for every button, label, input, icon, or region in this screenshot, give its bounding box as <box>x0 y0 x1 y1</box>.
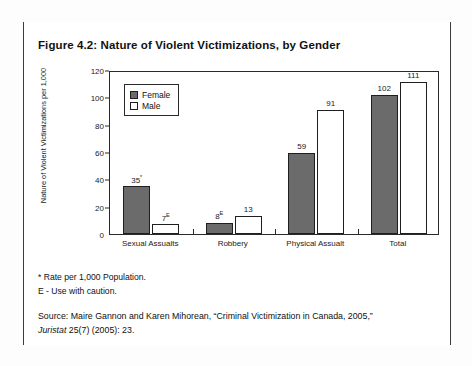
bar-value-label: 102 <box>378 84 391 93</box>
bar-value-label: 91 <box>326 99 335 108</box>
legend-swatch-male <box>130 102 138 110</box>
note-caution: E - Use with caution. <box>38 285 146 299</box>
x-category-label: Physical Assualt <box>286 239 344 248</box>
bar-male-3 <box>400 82 427 234</box>
bar-value-label: 111 <box>407 71 419 80</box>
bar-male-0 <box>152 224 179 234</box>
bar-value-label: 35* <box>131 174 142 185</box>
source-journal: Juristat <box>38 325 66 335</box>
bar-value-label: 7E <box>162 212 170 223</box>
plot-frame: 35*7E8E135991102111 Female Male <box>109 71 439 235</box>
bar-female-1 <box>206 223 233 234</box>
figure-notes: * Rate per 1,000 Population. E - Use wit… <box>38 271 146 298</box>
figure-page: Figure 4.2: Nature of Violent Victimizat… <box>0 0 472 366</box>
y-tick-label: 80 <box>95 121 104 130</box>
bar-value-label: 8E <box>215 210 223 221</box>
y-tick-label: 60 <box>95 149 104 158</box>
legend-item-female: Female <box>130 89 170 100</box>
x-axis-labels: Sexual AssualtsRobberyPhysical AssualtTo… <box>109 237 439 253</box>
bar-value-label: 13 <box>244 205 253 214</box>
legend: Female Male <box>124 84 179 116</box>
bar-male-2 <box>317 110 344 234</box>
note-rate: * Rate per 1,000 Population. <box>38 271 146 285</box>
bar-female-0 <box>123 186 150 234</box>
x-group-separator <box>193 229 194 234</box>
x-category-label: Robbery <box>218 239 248 248</box>
y-tick-label: 40 <box>95 176 104 185</box>
y-axis-ticks: 020406080100120 <box>79 71 109 235</box>
y-tick-label: 100 <box>91 94 104 103</box>
x-group-separator <box>358 229 359 234</box>
legend-label-male: Male <box>142 101 160 111</box>
bar-female-2 <box>288 153 315 234</box>
x-category-label: Sexual Assualts <box>122 239 178 248</box>
y-tick-label: 0 <box>100 231 104 240</box>
source-lead: Source: Maire Gannon and Karen Mihorean,… <box>38 311 373 321</box>
source-tail: 25(7) (2005): 23. <box>66 325 134 335</box>
y-tick-label: 20 <box>95 203 104 212</box>
legend-item-male: Male <box>130 100 170 111</box>
bar-value-label: 59 <box>297 142 306 151</box>
legend-swatch-female <box>130 91 138 99</box>
bar-female-3 <box>371 95 398 234</box>
x-group-separator <box>275 229 276 234</box>
bar-male-1 <box>235 216 262 234</box>
chart-area: Nature of Violent Victimizations per 1,0… <box>24 63 452 255</box>
figure-box: Figure 4.2: Nature of Violent Victimizat… <box>23 22 451 345</box>
y-tick-label: 120 <box>91 67 104 76</box>
figure-source: Source: Maire Gannon and Karen Mihorean,… <box>38 309 440 337</box>
figure-title: Figure 4.2: Nature of Violent Victimizat… <box>38 39 340 51</box>
y-axis-title: Nature of Violent Victimizations per 1,0… <box>39 56 48 216</box>
x-category-label: Total <box>389 239 406 248</box>
legend-label-female: Female <box>142 90 170 100</box>
